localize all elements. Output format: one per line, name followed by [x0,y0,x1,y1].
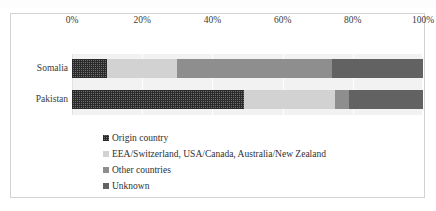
legend-label: EEA/Switzerland, USA/Canada, Australia/N… [112,148,326,160]
segment-pakistan-unknown [349,90,423,109]
legend-swatch-icon-unknown [103,183,109,189]
chart-frame: 0%20%40%60%80%100% Somalia Pakistan Orig… [10,13,425,198]
segment-somalia-unknown [332,59,423,78]
bar-somalia [72,59,423,78]
x-axis-tick-40pct: 40% [204,14,221,27]
legend-item-other-countries[interactable]: Other countries [103,162,433,178]
legend-label: Origin country [112,132,168,144]
legend-swatch-icon-eea-switzerland-usa-cana [103,151,109,157]
category-label-pakistan: Pakistan [36,93,68,105]
legend-label: Unknown [112,180,149,192]
legend-item-eea-switzerland-usa-canada-a[interactable]: EEA/Switzerland, USA/Canada, Australia/N… [103,146,433,162]
segment-somalia-other-countries [177,59,331,78]
category-label-somalia: Somalia [37,62,68,74]
segment-pakistan-other-countries [335,90,349,109]
segment-somalia-eea-switzerland-usa-cana [107,59,177,78]
x-axis-tick-20pct: 20% [133,14,150,27]
x-axis-tick-80pct: 80% [344,14,361,27]
x-axis-tick-60pct: 60% [274,14,291,27]
legend-item-unknown[interactable]: Unknown [103,178,433,194]
legend-swatch-icon-other-countries [103,167,109,173]
legend-swatch-icon-origin-country [103,135,109,141]
segment-pakistan-eea-switzerland-usa-cana [244,90,335,109]
legend-item-origin-country[interactable]: Origin country [103,130,433,146]
x-axis-tick-0pct: 0% [66,14,79,27]
bar-pakistan [72,90,423,109]
legend-label: Other countries [112,164,171,176]
scan-artifact [0,0,436,8]
plot-area [72,54,423,115]
segment-pakistan-origin-country [72,90,244,109]
x-axis-tick-labels: 0%20%40%60%80%100% [11,14,436,34]
legend: Origin countryEEA/Switzerland, USA/Canad… [103,130,433,194]
y-axis-category-labels: Somalia Pakistan [11,54,68,115]
segment-somalia-origin-country [72,59,107,78]
x-axis-tick-100pct: 100% [412,14,434,27]
